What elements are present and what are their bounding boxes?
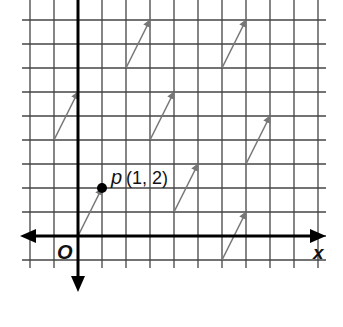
x-axis-label: x — [312, 242, 325, 263]
x-axis-left-arrow-icon — [20, 229, 36, 243]
point-p-name: p — [110, 166, 122, 188]
point-p-dot — [97, 183, 107, 193]
vector-translation-diagram: x O p (1, 2) — [0, 0, 343, 327]
grid — [22, 0, 326, 268]
point-p-coordinates: (1, 2) — [126, 168, 168, 188]
y-axis-down-arrow-icon — [71, 276, 85, 292]
origin-label: O — [57, 241, 73, 263]
